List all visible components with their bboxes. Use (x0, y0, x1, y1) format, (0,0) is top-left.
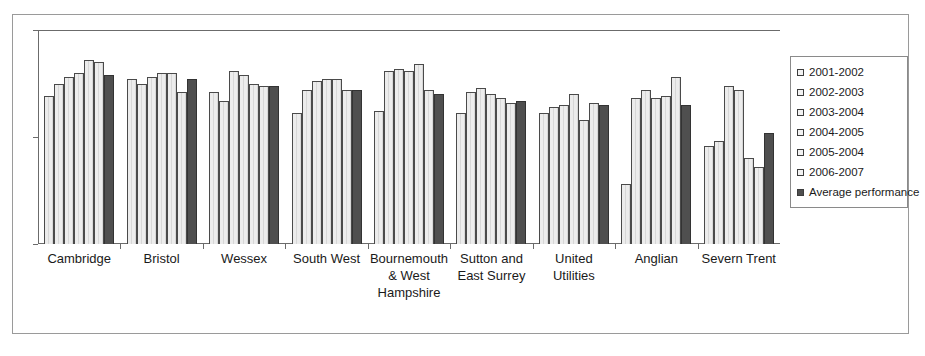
bar (209, 92, 219, 244)
category-label-line: Wessex (203, 250, 285, 267)
bar (621, 184, 631, 244)
bar (84, 60, 94, 244)
bar (681, 105, 691, 244)
bar (569, 94, 579, 244)
legend-swatch-icon (797, 129, 804, 136)
bar (167, 73, 177, 244)
legend-swatch-icon (797, 69, 804, 76)
category-label-line: South West (285, 250, 367, 267)
category-label-line: Bournemouth (368, 250, 450, 267)
x-axis-group-separator (203, 244, 204, 249)
bar (631, 98, 641, 244)
x-axis-group-separator (450, 244, 451, 249)
bar-group (368, 30, 450, 244)
bar-group (203, 30, 285, 244)
plot-area: 200250300 (38, 30, 780, 244)
bar (157, 73, 167, 244)
bar (259, 86, 269, 244)
bar (714, 141, 724, 244)
category-label-line: Utilities (533, 267, 615, 284)
bar (127, 79, 137, 244)
bar (506, 103, 516, 244)
x-axis-category-label: Bournemouth& WestHampshire (368, 250, 450, 301)
bar (424, 90, 434, 244)
bar (302, 90, 312, 244)
legend-label: 2002-2003 (809, 86, 864, 98)
bar (404, 71, 414, 244)
legend-item[interactable]: 2005-2004 (797, 142, 902, 162)
bar (466, 92, 476, 244)
bar-group (285, 30, 367, 244)
legend-swatch-icon (797, 109, 804, 116)
legend-item[interactable]: 2004-2005 (797, 122, 902, 142)
bar (476, 88, 486, 244)
bars-layer (38, 30, 780, 244)
category-label-line: Hampshire (368, 284, 450, 301)
bar (54, 84, 64, 245)
bar (269, 86, 279, 244)
bar (229, 71, 239, 244)
bar (104, 75, 114, 244)
bar (374, 111, 384, 244)
bar (549, 107, 559, 244)
bar (539, 113, 549, 244)
chart-title (14, 0, 574, 4)
x-axis-category-label: UnitedUtilities (533, 250, 615, 284)
bar (342, 90, 352, 244)
bar (292, 113, 302, 244)
bar (414, 64, 424, 244)
bar (579, 120, 589, 244)
legend-item[interactable]: 2001-2002 (797, 62, 902, 82)
legend-label: 2005-2004 (809, 146, 864, 158)
bar (754, 167, 764, 244)
bar (486, 94, 496, 244)
y-axis-tick-mark (33, 244, 38, 245)
bar (394, 69, 404, 244)
legend-item[interactable]: 2006-2007 (797, 162, 902, 182)
bar (147, 77, 157, 244)
bar (661, 96, 671, 244)
x-axis-category-label: Severn Trent (698, 250, 780, 267)
legend-label: Average performance (809, 186, 919, 198)
category-label-line: Anglian (615, 250, 697, 267)
x-axis-group-separator (533, 244, 534, 249)
bar-group (698, 30, 780, 244)
category-label-line: & West (368, 267, 450, 284)
bar (599, 105, 609, 244)
bar (322, 79, 332, 244)
category-label-line: East Surrey (450, 267, 532, 284)
bar (64, 77, 74, 244)
bar (704, 146, 714, 244)
legend-item[interactable]: Average performance (797, 182, 902, 202)
bar (651, 98, 661, 244)
bar (74, 73, 84, 244)
bar-group (38, 30, 120, 244)
legend-item[interactable]: 2002-2003 (797, 82, 902, 102)
bar (239, 75, 249, 244)
bar (384, 71, 394, 244)
category-label-line: Severn Trent (698, 250, 780, 267)
chart-legend: 2001-20022002-20032003-20042004-20052005… (790, 56, 908, 208)
bar (671, 77, 681, 244)
bar (332, 79, 342, 244)
x-axis-group-separator (368, 244, 369, 249)
legend-label: 2006-2007 (809, 166, 864, 178)
x-axis-group-separator (698, 244, 699, 249)
legend-swatch-icon (797, 169, 804, 176)
x-axis-category-label: South West (285, 250, 367, 267)
bar (44, 96, 54, 244)
x-axis-category-label: Bristol (120, 250, 202, 267)
category-label-line: Cambridge (38, 250, 120, 267)
bar (764, 133, 774, 244)
x-axis-group-separator (285, 244, 286, 249)
legend-item[interactable]: 2003-2004 (797, 102, 902, 122)
bar (312, 81, 322, 244)
bar-group (533, 30, 615, 244)
bar (456, 113, 466, 244)
x-axis-category-label: Wessex (203, 250, 285, 267)
bar-group (120, 30, 202, 244)
bar (249, 84, 259, 245)
bar (516, 101, 526, 244)
bar-group (450, 30, 532, 244)
legend-swatch-icon (797, 89, 804, 96)
